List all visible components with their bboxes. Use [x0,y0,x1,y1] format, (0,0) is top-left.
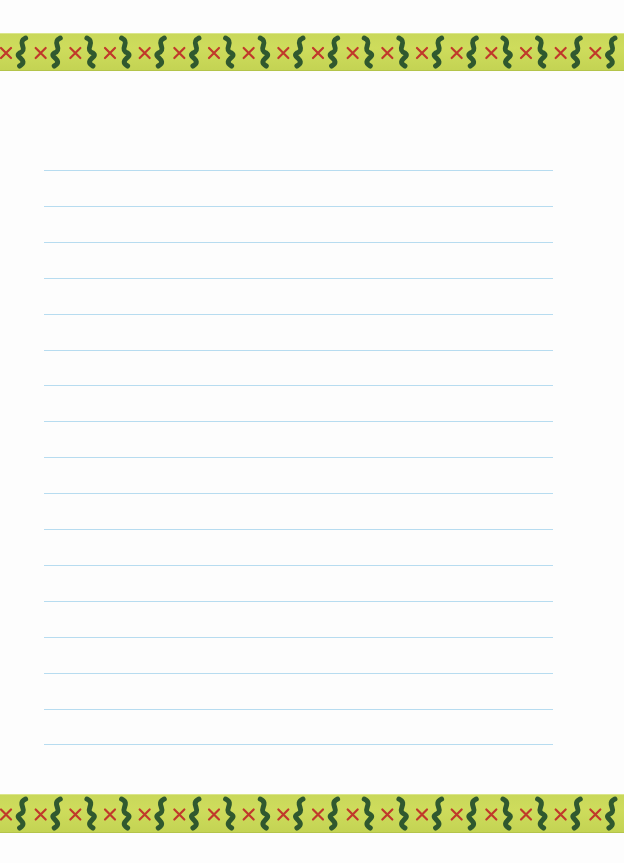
ruled-line [44,457,553,458]
ruled-line [44,709,553,710]
bottom-decorative-border [0,794,624,833]
cross-squiggle-pattern-icon [0,794,624,833]
ruled-line [44,673,553,674]
ruled-line [44,314,553,315]
ruled-line [44,493,553,494]
ruled-line [44,278,553,279]
ruled-lines-area [44,0,553,863]
ruled-line [44,350,553,351]
ruled-line [44,242,553,243]
ruled-line [44,206,553,207]
ruled-line [44,637,553,638]
ruled-line [44,385,553,386]
ruled-line [44,601,553,602]
ruled-line [44,170,553,171]
ruled-line [44,421,553,422]
ruled-line [44,565,553,566]
ruled-line [44,744,553,745]
ruled-line [44,529,553,530]
